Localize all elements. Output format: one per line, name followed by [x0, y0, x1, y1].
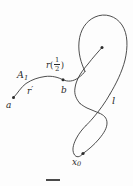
label-arc-segment-base: A — [17, 69, 24, 80]
point-marker-r-half — [101, 46, 104, 49]
label-one-half-fraction: 12 — [54, 57, 60, 73]
label-loop-l: l — [112, 96, 115, 106]
path-inner-to-endpoint — [75, 48, 102, 104]
caption-rule-mark — [46, 179, 60, 181]
fraction-denominator: 2 — [54, 66, 60, 73]
label-r-of-one-half: r(12) — [46, 57, 64, 73]
label-point-b: b — [61, 86, 67, 95]
point-marker-a — [12, 96, 15, 99]
label-x0-subscript: 0 — [77, 160, 81, 168]
label-point-x0: x0 — [72, 158, 81, 168]
label-r-close-paren: ) — [61, 60, 64, 70]
path-crossing-to-upper-right — [80, 104, 99, 114]
fraction-numerator: 1 — [54, 57, 60, 64]
label-path-r-prime: r′ — [27, 86, 33, 96]
label-path-prime-mark: ′ — [31, 85, 33, 95]
figure-container: a A1 r′ b r(12) l x0 — [0, 0, 133, 186]
label-arc-segment-subscript: 1 — [24, 74, 28, 82]
path-lower-loop-left — [73, 126, 86, 157]
path-lower-loop-right — [83, 113, 107, 154]
label-arc-segment-a1: A1 — [17, 70, 28, 81]
label-point-a: a — [6, 101, 11, 110]
point-marker-x0 — [81, 152, 84, 155]
label-r-open-paren: ( — [50, 60, 53, 70]
point-marker-b — [62, 78, 65, 81]
path-upper-loop — [79, 15, 127, 94]
